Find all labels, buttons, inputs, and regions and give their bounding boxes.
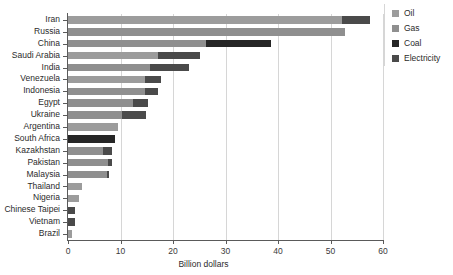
x-tick-label: 10	[116, 246, 125, 256]
bar-segment-electricity	[122, 111, 146, 119]
bar-segment-gas	[68, 40, 206, 48]
x-tick-label: 0	[66, 246, 71, 256]
bar-segment-gas	[68, 147, 103, 155]
bar-segment-oil	[68, 16, 342, 24]
bar-segment-electricity	[108, 159, 112, 167]
category-label: Pakistan	[0, 157, 60, 169]
bar-segment-gas	[68, 159, 108, 167]
bar-row: Russia	[0, 26, 453, 38]
category-label: Russia	[0, 26, 60, 38]
x-tick-label: 60	[378, 246, 387, 256]
bar-segment-coal	[206, 40, 271, 48]
bar-row: Egypt	[0, 97, 453, 109]
legend-item-oil[interactable]: Oil	[392, 6, 440, 21]
bar-segment-gas	[68, 111, 122, 119]
bar-segment-oil	[68, 183, 82, 191]
x-tick-label: 30	[221, 246, 230, 256]
category-label: Venezuela	[0, 73, 60, 85]
legend-item-coal[interactable]: Coal	[392, 36, 440, 51]
legend-label: Oil	[404, 9, 414, 18]
bar-segment-oil	[68, 123, 118, 131]
category-label: South Africa	[0, 133, 60, 145]
legend-label: Electricity	[404, 54, 440, 63]
legend-label: Coal	[404, 39, 421, 48]
legend-swatch-icon	[392, 40, 399, 47]
bar-segment-coal	[68, 135, 115, 143]
bar-row: Vietnam	[0, 216, 453, 228]
legend-swatch-icon	[392, 25, 399, 32]
bar-segment-electricity	[158, 52, 200, 60]
bar-segment-electricity	[68, 207, 75, 215]
x-tick-mark	[121, 240, 122, 244]
bar-segment-electricity	[68, 218, 75, 226]
x-axis-title: Billion dollars	[0, 259, 453, 269]
legend-item-electricity[interactable]: Electricity	[392, 51, 440, 66]
category-label: Iran	[0, 14, 60, 26]
category-label: India	[0, 62, 60, 74]
bar-segment-electricity	[150, 64, 189, 72]
category-label: Nigeria	[0, 192, 60, 204]
bar-row: Chinese Taipei	[0, 204, 453, 216]
x-tick-label: 50	[326, 246, 335, 256]
legend-swatch-icon	[392, 10, 399, 17]
bar-row: India	[0, 62, 453, 74]
chart-legend: OilGasCoalElectricity	[392, 6, 440, 66]
x-tick-mark	[226, 240, 227, 244]
bar-row: Pakistan	[0, 157, 453, 169]
category-label: Ukraine	[0, 109, 60, 121]
bar-segment-electricity	[145, 88, 158, 96]
bar-segment-electricity	[133, 99, 148, 107]
bar-segment-gas	[68, 99, 133, 107]
bar-row: Argentina	[0, 121, 453, 133]
bar-segment-oil	[68, 195, 79, 203]
x-tick-mark	[173, 240, 174, 244]
bar-segment-oil	[68, 230, 72, 238]
category-label: Indonesia	[0, 85, 60, 97]
x-tick-mark	[383, 240, 384, 244]
bar-segment-electricity	[342, 16, 370, 24]
category-label: Egypt	[0, 97, 60, 109]
category-label: Kazakhstan	[0, 145, 60, 157]
category-label: Thailand	[0, 181, 60, 193]
bar-segment-electricity	[107, 171, 109, 179]
bar-segment-oil	[68, 52, 158, 60]
bar-row: Thailand	[0, 181, 453, 193]
bar-segment-electricity	[103, 147, 112, 155]
bar-row: Malaysia	[0, 169, 453, 181]
legend-item-gas[interactable]: Gas	[392, 21, 440, 36]
legend-swatch-icon	[392, 55, 399, 62]
bar-row: Iran	[0, 14, 453, 26]
bar-row: Ukraine	[0, 109, 453, 121]
bar-segment-gas	[68, 64, 150, 72]
x-tick-mark	[331, 240, 332, 244]
bar-row: Venezuela	[0, 73, 453, 85]
category-label: China	[0, 38, 60, 50]
category-label: Brazil	[0, 228, 60, 240]
category-label: Saudi Arabia	[0, 50, 60, 62]
bar-row: South Africa	[0, 133, 453, 145]
bar-segment-gas	[68, 171, 107, 179]
x-tick-mark	[278, 240, 279, 244]
x-tick-label: 40	[273, 246, 282, 256]
category-label: Chinese Taipei	[0, 204, 60, 216]
bar-row: Indonesia	[0, 85, 453, 97]
bar-row: Brazil	[0, 228, 453, 240]
x-tick-label: 20	[168, 246, 177, 256]
bar-row: China	[0, 38, 453, 50]
bar-row: Kazakhstan	[0, 145, 453, 157]
category-label: Argentina	[0, 121, 60, 133]
bar-segment-oil	[68, 76, 145, 84]
bar-segment-gas	[68, 28, 345, 36]
x-tick-mark	[68, 240, 69, 244]
bar-row: Nigeria	[0, 192, 453, 204]
bar-segment-electricity	[145, 76, 161, 84]
legend-label: Gas	[404, 24, 420, 33]
category-label: Vietnam	[0, 216, 60, 228]
bar-segment-gas	[68, 88, 145, 96]
chart-figure: 0102030405060 IranRussiaChinaSaudi Arabi…	[0, 0, 453, 275]
bar-row: Saudi Arabia	[0, 50, 453, 62]
category-label: Malaysia	[0, 169, 60, 181]
